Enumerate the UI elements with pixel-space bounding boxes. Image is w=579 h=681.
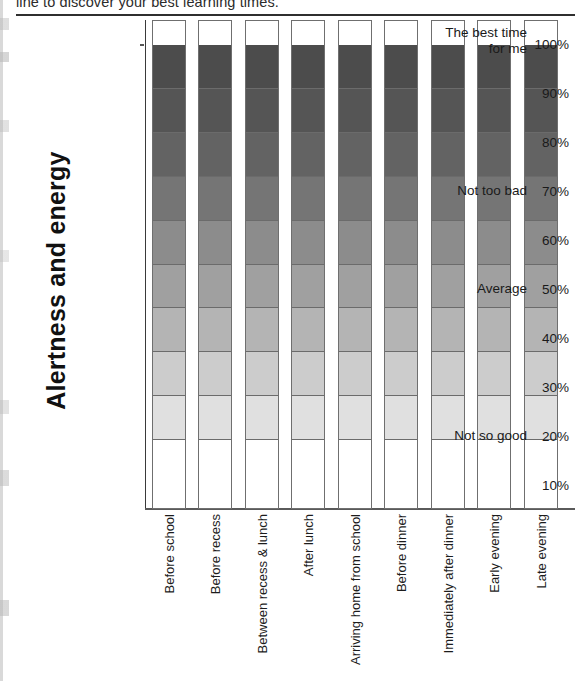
bar-segment-30 bbox=[385, 352, 417, 396]
y-tick-label-40: 40% bbox=[542, 330, 569, 345]
bar-segment-80 bbox=[339, 133, 371, 177]
bar-segment-10 bbox=[339, 440, 371, 484]
bar-segment-50 bbox=[199, 265, 231, 309]
y-tick-label-80: 80% bbox=[542, 135, 569, 150]
bar-segment-70 bbox=[339, 177, 371, 221]
x-axis-label-before-recess: Before recess bbox=[198, 514, 232, 679]
x-axis-label-before-school: Before school bbox=[152, 514, 186, 679]
bar-segment-30 bbox=[432, 352, 464, 396]
bar-segment-50 bbox=[385, 265, 417, 309]
bar-segment-30 bbox=[339, 352, 371, 396]
x-axis-label-text: Before school bbox=[162, 514, 177, 594]
bar-segment-80 bbox=[292, 133, 324, 177]
bar-segment-100 bbox=[292, 45, 324, 89]
x-axis-label-text: Immediately after dinner bbox=[440, 514, 455, 653]
x-axis-label-before-dinner: Before dinner bbox=[384, 514, 418, 679]
bar-segment-30 bbox=[199, 352, 231, 396]
band-annotation-the-best-time-for-me: The best timefor me bbox=[445, 26, 527, 58]
x-axis-label-late-evening: Late evening bbox=[524, 514, 558, 679]
bar-segment-40 bbox=[432, 308, 464, 352]
bar-segment-30 bbox=[292, 352, 324, 396]
bar-segment-80 bbox=[385, 133, 417, 177]
bar-after-lunch[interactable] bbox=[291, 20, 325, 509]
band-annotation-average: Average bbox=[477, 281, 527, 297]
clipped-heading-text: line to discover your best learning time… bbox=[16, 0, 279, 10]
bar-segment-40 bbox=[246, 308, 278, 352]
bar-segment-70 bbox=[199, 177, 231, 221]
bar-segment-10 bbox=[432, 440, 464, 484]
bar-segment-90 bbox=[199, 89, 231, 133]
bar-segment-100 bbox=[199, 45, 231, 89]
y-tick-label-100: 100% bbox=[534, 37, 569, 52]
bar-segment-60 bbox=[199, 221, 231, 265]
bar-arriving-home-from-school[interactable] bbox=[338, 20, 372, 509]
x-axis-label-text: Between recess & lunch bbox=[254, 514, 269, 653]
bar-segment-60 bbox=[292, 221, 324, 265]
bar-segment-100 bbox=[339, 45, 371, 89]
axis-tick-mark bbox=[140, 44, 144, 46]
bar-segment-20 bbox=[246, 396, 278, 440]
bar-segment-10 bbox=[385, 440, 417, 484]
bar-segment-20 bbox=[292, 396, 324, 440]
bar-segment-90 bbox=[339, 89, 371, 133]
band-annotation-not-too-bad: Not too bad bbox=[457, 183, 527, 199]
y-axis: Alertness and energy bbox=[0, 20, 145, 509]
bar-before-dinner[interactable] bbox=[384, 20, 418, 509]
x-axis-label-text: Late evening bbox=[533, 514, 548, 588]
x-axis-label-early-evening: Early evening bbox=[477, 514, 511, 679]
bar-segment-90 bbox=[292, 89, 324, 133]
bar-segment-70 bbox=[153, 177, 185, 221]
bar-segment-30 bbox=[478, 352, 510, 396]
bar-segment-20 bbox=[339, 396, 371, 440]
bar-before-school[interactable] bbox=[152, 20, 186, 509]
bar-before-recess[interactable] bbox=[198, 20, 232, 509]
x-axis-label-arriving-home-from-school: Arriving home from school bbox=[338, 514, 372, 679]
y-tick-label-30: 30% bbox=[542, 379, 569, 394]
bar-segment-90 bbox=[478, 89, 510, 133]
bar-segment-50 bbox=[246, 265, 278, 309]
bar-segment-20 bbox=[385, 396, 417, 440]
y-tick-label-60: 60% bbox=[542, 233, 569, 248]
x-axis-label-text: Early evening bbox=[487, 514, 502, 593]
band-annotation-not-so-good: Not so good bbox=[454, 428, 527, 444]
bar-between-recess-lunch[interactable] bbox=[245, 20, 279, 509]
bar-segment-80 bbox=[432, 133, 464, 177]
bar-segment-40 bbox=[199, 308, 231, 352]
bar-segment-60 bbox=[385, 221, 417, 265]
bar-segment-40 bbox=[385, 308, 417, 352]
bar-segment-90 bbox=[385, 89, 417, 133]
bar-segment-80 bbox=[153, 133, 185, 177]
bar-segment-100 bbox=[525, 45, 557, 89]
bar-segment-30 bbox=[246, 352, 278, 396]
y-tick-label-10: 10% bbox=[542, 477, 569, 492]
bar-segment-60 bbox=[153, 221, 185, 265]
bar-segment-10 bbox=[292, 440, 324, 484]
y-axis-title: Alertness and energy bbox=[42, 121, 71, 441]
bar-segment-40 bbox=[339, 308, 371, 352]
x-axis-labels: Before schoolBefore recessBetween recess… bbox=[145, 510, 575, 681]
bar-segment-90 bbox=[246, 89, 278, 133]
y-tick-label-90: 90% bbox=[542, 86, 569, 101]
bar-segment-70 bbox=[246, 177, 278, 221]
bar-segment-60 bbox=[246, 221, 278, 265]
bar-segment-90 bbox=[153, 89, 185, 133]
y-tick-label-70: 70% bbox=[542, 184, 569, 199]
x-axis-label-text: After lunch bbox=[301, 514, 316, 576]
x-axis-label-text: Arriving home from school bbox=[347, 514, 362, 665]
x-axis-label-text: Before dinner bbox=[394, 514, 409, 592]
bar-segment-10 bbox=[246, 440, 278, 484]
bar-segment-80 bbox=[478, 133, 510, 177]
bar-segment-60 bbox=[478, 221, 510, 265]
bar-segment-80 bbox=[199, 133, 231, 177]
bar-segment-10 bbox=[478, 440, 510, 484]
bar-segment-40 bbox=[478, 308, 510, 352]
bar-segment-10 bbox=[199, 440, 231, 484]
bar-segment-10 bbox=[153, 440, 185, 484]
bar-segment-90 bbox=[432, 89, 464, 133]
bar-segment-80 bbox=[246, 133, 278, 177]
x-axis-label-between-recess-lunch: Between recess & lunch bbox=[245, 514, 279, 679]
bar-segment-20 bbox=[199, 396, 231, 440]
y-tick-label-50: 50% bbox=[542, 281, 569, 296]
bar-segment-50 bbox=[292, 265, 324, 309]
y-tick-label-20: 20% bbox=[542, 428, 569, 443]
